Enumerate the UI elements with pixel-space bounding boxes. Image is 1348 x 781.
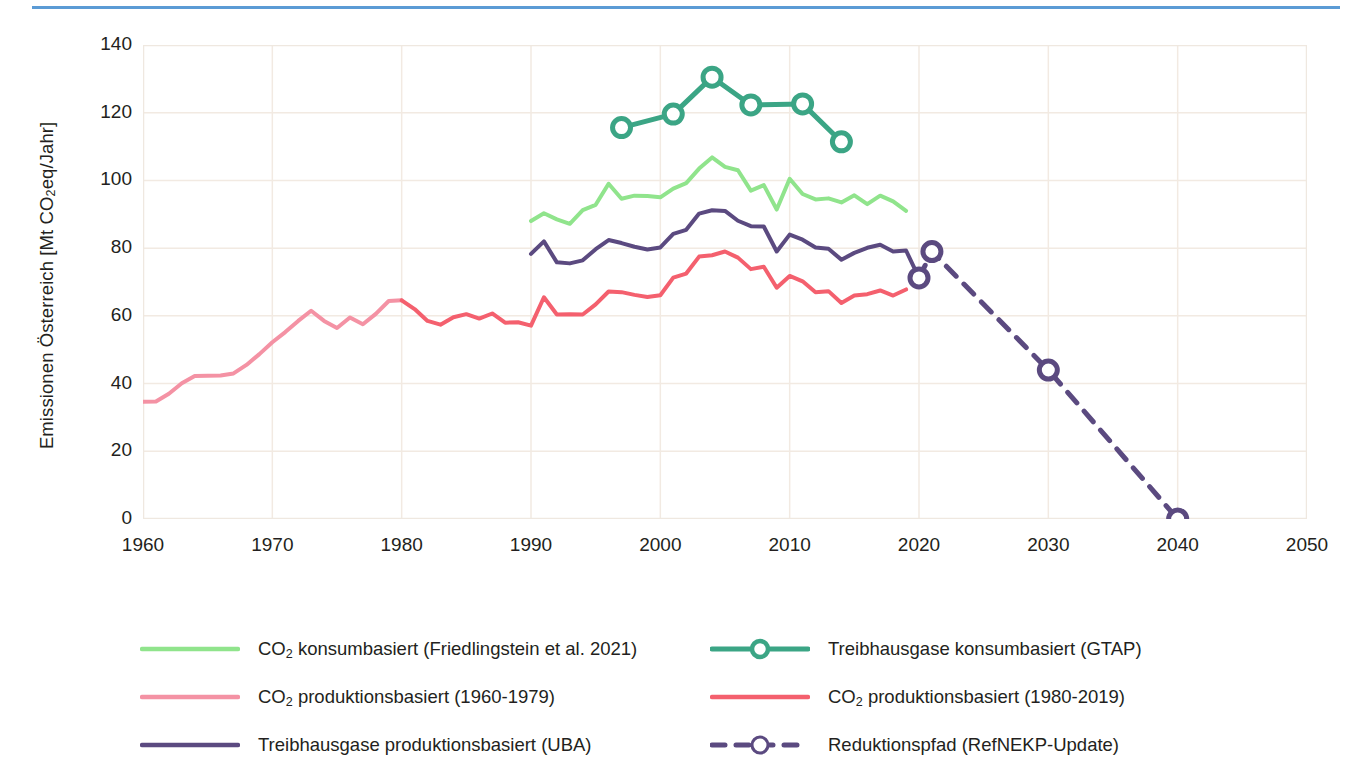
legend-item-label: Treibhausgase konsumbasiert (GTAP) [828,638,1142,660]
x-axis-tick-label: 2050 [1262,534,1348,556]
legend-item[interactable]: Reduktionspfad (RefNEKP-Update) [710,722,1275,768]
legend-item[interactable]: CO2 konsumbasiert (Friedlingstein et al.… [140,626,705,672]
plot-area [143,45,1307,519]
series-marker [703,68,721,86]
legend-item-label: CO2 konsumbasiert (Friedlingstein et al.… [258,638,637,661]
legend-item-label: CO2 produktionsbasiert (1980-2019) [828,686,1125,709]
series-marker [742,96,760,114]
series-marker [923,243,941,261]
legend-row: CO2 konsumbasiert (Friedlingstein et al.… [140,626,1330,672]
x-axis-tick-label: 2010 [745,534,835,556]
legend-label-subscript: 2 [286,646,293,660]
y-axis-tick-labels: 020406080100120140 [72,45,132,519]
legend-label-text: konsumbasiert (Friedlingstein et al. 202… [293,638,637,659]
line-marker-swatch [710,638,810,660]
x-axis-tick-label: 2000 [615,534,705,556]
top-accent-rule [32,6,1340,9]
legend-item[interactable]: Treibhausgase konsumbasiert (GTAP) [710,626,1275,672]
y-axis-tick-label: 100 [72,168,132,190]
chart-svg [143,45,1307,519]
chart-legend: CO2 konsumbasiert (Friedlingstein et al.… [140,626,1330,766]
y-axis-label: Emissionen Österreich [Mt CO2eq/Jahr] [36,45,59,525]
legend-label-pre: CO [258,638,286,659]
x-axis-tick-label: 1960 [98,534,188,556]
series-line [531,210,919,278]
x-axis-tick-label: 1990 [486,534,576,556]
legend-row: Treibhausgase produktionsbasiert (UBA)Re… [140,722,1330,768]
legend-item-label: CO2 produktionsbasiert (1960-1979) [258,686,555,709]
y-axis-tick-label: 40 [72,372,132,394]
y-axis-tick-label: 20 [72,439,132,461]
x-axis-tick-labels: 1960197019801990200020102020203020402050 [143,534,1307,564]
plot-border [144,46,1307,519]
legend-item[interactable]: CO2 produktionsbasiert (1980-2019) [710,674,1275,720]
y-axis-label-pre: Emissionen Österreich [Mt CO [36,196,57,449]
line-swatch [140,734,240,756]
series-marker [910,269,928,287]
y-axis-tick-label: 0 [72,507,132,529]
legend-label-text: produktionsbasiert (1960-1979) [293,686,555,707]
y-axis-tick-label: 120 [72,101,132,123]
series-marker [832,133,850,151]
line-swatch [140,638,240,660]
legend-item-label: Reduktionspfad (RefNEKP-Update) [828,734,1119,756]
x-axis-tick-label: 2020 [874,534,964,556]
legend-label-text: Treibhausgase produktionsbasiert (UBA) [258,734,592,755]
series-marker [664,105,682,123]
series-line [402,252,906,326]
y-axis-tick-label: 60 [72,304,132,326]
legend-label-subscript: 2 [286,694,293,708]
legend-label-subscript: 2 [856,694,863,708]
y-axis-label-subscript: 2 [44,189,58,196]
legend-row: CO2 produktionsbasiert (1960-1979)CO2 pr… [140,674,1330,720]
legend-label-text: produktionsbasiert (1980-2019) [863,686,1125,707]
grid-lines [143,45,1307,519]
series-marker [613,119,631,137]
x-axis-tick-label: 2040 [1133,534,1223,556]
legend-item[interactable]: Treibhausgase produktionsbasiert (UBA) [140,722,705,768]
series-marker [1039,361,1057,379]
x-axis-tick-label: 1970 [227,534,317,556]
line-swatch [140,686,240,708]
chart-page: Emissionen Österreich [Mt CO2eq/Jahr] 02… [0,0,1348,781]
legend-label-text: Reduktionspfad (RefNEKP-Update) [828,734,1119,755]
legend-label-pre: CO [828,686,856,707]
legend-label-pre: CO [258,686,286,707]
series-marker [1169,510,1187,519]
series-line [531,157,906,223]
y-axis-tick-label: 80 [72,236,132,258]
dashed-line-marker-swatch [710,734,810,756]
y-axis-tick-label: 140 [72,33,132,55]
legend-label-text: Treibhausgase konsumbasiert (GTAP) [828,638,1142,659]
legend-item-label: Treibhausgase produktionsbasiert (UBA) [258,734,592,756]
x-axis-tick-label: 2030 [1003,534,1093,556]
x-axis-tick-label: 1980 [357,534,447,556]
legend-item[interactable]: CO2 produktionsbasiert (1960-1979) [140,674,705,720]
y-axis-label-post: eq/Jahr] [36,122,57,190]
series-marker [794,95,812,113]
line-swatch [710,686,810,708]
